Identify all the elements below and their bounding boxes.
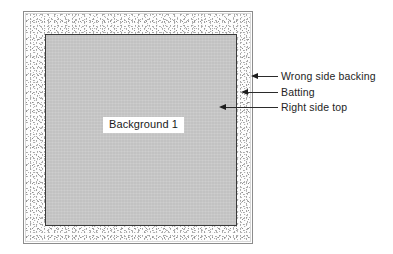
arrowhead-wrong-side-backing [251, 73, 258, 79]
diagram-canvas: Background 1 Wrong side backing Batting … [0, 0, 393, 254]
background-caption: Background 1 [103, 117, 184, 133]
arrowhead-right-side-top [219, 104, 226, 110]
leader-line-batting [248, 92, 278, 93]
arrowhead-batting [241, 89, 248, 95]
callout-label-right-side-top: Right side top [281, 101, 347, 113]
leader-line-wrong-side-backing [258, 76, 278, 77]
callout-label-batting: Batting [281, 86, 315, 98]
leader-line-right-side-top [226, 107, 278, 108]
callout-label-wrong-side-backing: Wrong side backing [281, 70, 376, 82]
